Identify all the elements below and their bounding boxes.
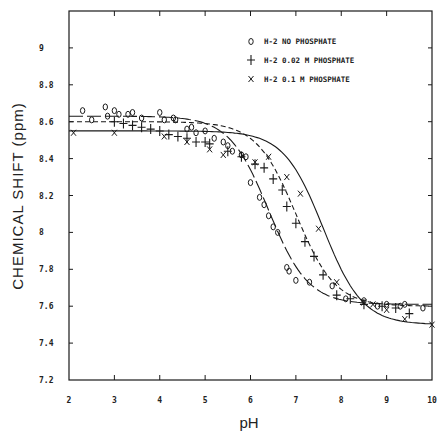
marker-o (330, 283, 334, 289)
y-tick-label: 7.4 (39, 339, 54, 348)
marker-o (112, 108, 116, 114)
marker-o (162, 117, 166, 123)
marker-plus (333, 290, 341, 300)
marker-plus (224, 146, 232, 156)
marker-plus (292, 218, 300, 228)
marker-x (334, 279, 339, 285)
x-tick-label: 3 (112, 396, 117, 405)
data-points (71, 104, 434, 328)
y-tick-label: 8.6 (39, 118, 54, 127)
y-tick-label: 8.4 (39, 155, 54, 164)
legend-label: H-2 0.02 M PHOSPHATE (264, 56, 355, 65)
marker-o (212, 135, 216, 141)
fit-curve-1 (69, 122, 432, 306)
x-tick-label: 9 (384, 396, 389, 405)
marker-plus (278, 185, 286, 195)
marker-plus (269, 174, 277, 184)
fit-curves (69, 116, 432, 324)
marker-o (266, 213, 270, 219)
y-tick-label: 9 (39, 44, 44, 53)
marker-x (316, 226, 321, 232)
marker-o (257, 194, 261, 200)
marker-plus (201, 137, 209, 147)
marker-o (248, 180, 252, 186)
marker-plus (119, 119, 127, 129)
marker-plus (110, 117, 118, 127)
marker-o (89, 117, 93, 123)
legend-marker-o (249, 39, 253, 45)
x-tick-label: 10 (427, 396, 437, 405)
marker-plus (147, 124, 155, 134)
marker-plus (174, 131, 182, 141)
x-tick-label: 4 (157, 396, 162, 405)
marker-plus (237, 152, 245, 162)
y-tick-label: 8.2 (39, 192, 54, 201)
marker-x (298, 191, 303, 197)
marker-o (271, 224, 275, 230)
marker-plus (319, 270, 327, 280)
x-axis: 2345678910 (67, 11, 437, 405)
marker-plus (251, 159, 259, 169)
y-tick-label: 7.6 (39, 302, 54, 311)
y-tick-label: 7.8 (39, 265, 54, 274)
marker-x (284, 174, 289, 180)
x-tick-label: 5 (203, 396, 208, 405)
y-axis-title: CHEMICAL SHIFT (ppm) (9, 102, 26, 290)
y-tick-label: 8 (39, 228, 44, 237)
legend-marker-x (249, 76, 254, 82)
marker-o (189, 124, 193, 130)
x-tick-label: 8 (339, 396, 344, 405)
y-tick-label: 7.2 (39, 376, 54, 385)
fit-curve-2 (69, 131, 432, 324)
marker-o (80, 108, 84, 114)
marker-o (158, 109, 162, 115)
marker-o (103, 104, 107, 110)
y-axis: 7.27.47.67.888.28.48.68.89 (39, 44, 432, 385)
marker-x (162, 133, 167, 139)
legend-label: H-2 0.1 M PHOSPHATE (264, 75, 350, 84)
legend: H-2 NO PHOSPHATEH-2 0.02 M PHOSPHATEH-2 … (247, 37, 355, 84)
legend-label: H-2 NO PHOSPHATE (264, 37, 337, 46)
marker-o (130, 109, 134, 115)
x-tick-label: 7 (293, 396, 298, 405)
marker-o (262, 202, 266, 208)
marker-plus (260, 163, 268, 173)
marker-plus (301, 237, 309, 247)
marker-x (371, 301, 376, 307)
marker-o (294, 277, 298, 283)
y-tick-label: 8.8 (39, 81, 54, 90)
plot-border (69, 11, 432, 380)
marker-plus (283, 202, 291, 212)
fit-curve-0 (69, 116, 432, 304)
plot-frame (69, 11, 432, 380)
x-tick-label: 2 (67, 396, 72, 405)
legend-marker-plus (247, 55, 255, 65)
x-axis-title: pH (239, 414, 258, 431)
marker-o (221, 139, 225, 145)
marker-o (139, 115, 143, 121)
marker-o (421, 305, 425, 311)
marker-x (221, 152, 226, 158)
x-tick-label: 6 (248, 396, 253, 405)
chart: 2345678910 7.27.47.67.888.28.48.68.89 H-… (0, 0, 439, 437)
marker-plus (192, 137, 200, 147)
